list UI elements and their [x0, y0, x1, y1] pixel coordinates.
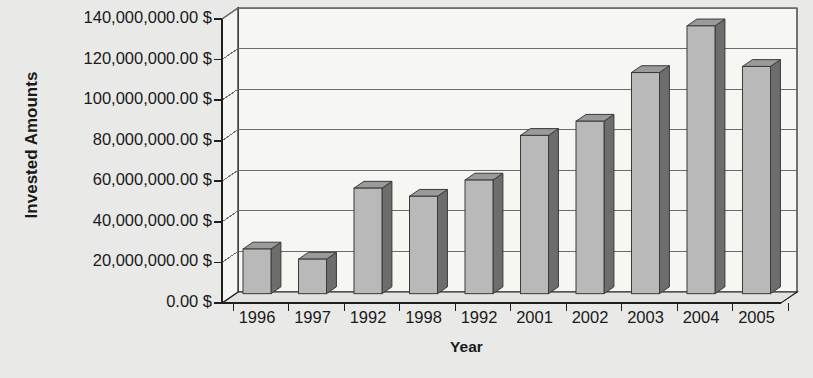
- bar-2004-8[interactable]: [687, 19, 725, 294]
- x-tick-label-0: 1996: [227, 308, 287, 327]
- x-axis-title: Year: [0, 338, 813, 356]
- bar-side-face: [493, 173, 503, 293]
- y-tick-label-5: 100,000,000.00 $: [12, 89, 212, 108]
- y-tick-label-1: 20,000,000.00 $: [12, 251, 212, 270]
- y-tick-label-3: 60,000,000.00 $: [12, 170, 212, 189]
- y-tick-label-2: 40,000,000.00 $: [12, 211, 212, 230]
- bar-front-face: [410, 196, 438, 293]
- plot-left-wall: [222, 8, 238, 303]
- x-tick-label-4: 1992: [449, 308, 509, 327]
- bar-2003-7[interactable]: [632, 66, 670, 294]
- bar-front-face: [521, 135, 549, 293]
- bar-side-face: [438, 189, 448, 293]
- bar-side-face: [604, 114, 614, 293]
- x-tick-label-8: 2004: [671, 308, 731, 327]
- bar-front-face: [299, 259, 327, 293]
- bar-side-face: [660, 66, 670, 294]
- bar-side-face: [271, 242, 281, 293]
- bar-2002-6[interactable]: [576, 114, 614, 293]
- bar-1998-3[interactable]: [410, 189, 448, 293]
- x-axis-title-text: Year: [450, 338, 483, 355]
- x-axis-tick-labels: 1996199719921998199220012002200320042005: [0, 308, 813, 334]
- bar-2005-9[interactable]: [743, 60, 781, 294]
- bar-1992-4[interactable]: [465, 173, 503, 293]
- bar-front-face: [243, 249, 271, 294]
- bar-front-face: [687, 26, 715, 294]
- bar-front-face: [354, 188, 382, 293]
- x-tick-label-6: 2002: [560, 308, 620, 327]
- bar-front-face: [576, 121, 604, 293]
- bar-1996-0[interactable]: [243, 242, 281, 293]
- bar-front-face: [465, 180, 493, 294]
- y-tick-label-4: 80,000,000.00 $: [12, 130, 212, 149]
- bar-1992-2[interactable]: [354, 181, 392, 293]
- bar-1997-1[interactable]: [299, 252, 337, 293]
- bar-front-face: [743, 66, 771, 293]
- x-tick-label-2: 1992: [338, 308, 398, 327]
- x-tick-label-1: 1997: [283, 308, 343, 327]
- bar-side-face: [771, 60, 781, 294]
- x-tick-label-7: 2003: [616, 308, 676, 327]
- bar-side-face: [715, 19, 725, 294]
- x-tick-label-5: 2001: [505, 308, 565, 327]
- y-tick-label-7: 140,000,000.00 $: [12, 8, 212, 27]
- bar-chart: Invested Amounts 0.00 $20,000,000.00 $40…: [0, 0, 813, 378]
- x-tick-label-3: 1998: [394, 308, 454, 327]
- bar-front-face: [632, 73, 660, 294]
- bar-side-face: [382, 181, 392, 293]
- x-tick-label-9: 2005: [727, 308, 787, 327]
- bar-side-face: [549, 129, 559, 294]
- bar-2001-5[interactable]: [521, 129, 559, 294]
- y-tick-label-6: 120,000,000.00 $: [12, 49, 212, 68]
